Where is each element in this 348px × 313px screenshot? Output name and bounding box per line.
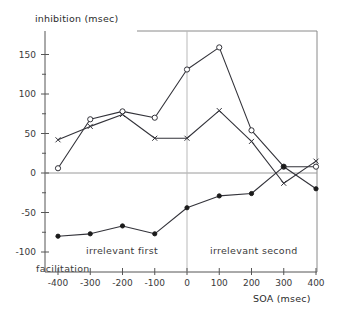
axis-frame-layer — [45, 31, 317, 272]
marker-circle-open — [313, 164, 318, 169]
marker-circle-filled — [56, 234, 60, 238]
marker-circle-filled — [185, 206, 189, 210]
marker-circle-filled — [88, 232, 92, 236]
tick-mark-layer — [41, 55, 316, 276]
marker-circle-open — [152, 115, 157, 120]
marker-circle-open — [88, 117, 93, 122]
marker-circle-filled — [153, 232, 157, 236]
marker-circle-filled — [282, 165, 286, 169]
marker-circle-open — [184, 67, 189, 72]
marker-circle-filled — [314, 187, 318, 191]
reference-line-layer — [45, 31, 317, 272]
marker-circle-open — [249, 128, 254, 133]
marker-circle-filled — [120, 224, 124, 228]
marker-circle-filled — [217, 194, 221, 198]
marker-circle-open — [217, 45, 222, 50]
marker-circle-open — [55, 166, 60, 171]
chart-figure: inhibition (msec) SOA (msec) irrelevant … — [0, 0, 348, 313]
marker-circle-filled — [249, 191, 253, 195]
plot-area — [0, 0, 348, 313]
